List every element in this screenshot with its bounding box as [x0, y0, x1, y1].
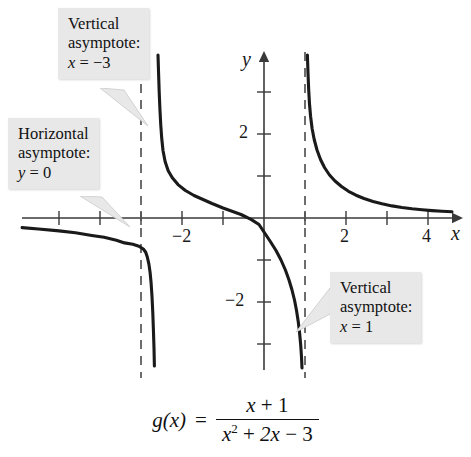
equation-lhs: g(x)	[152, 408, 186, 433]
callout-horizontal-asymptote: Horizontal asymptote: y = 0	[8, 118, 99, 189]
curve-left-branch	[22, 228, 154, 366]
callout-line-3: y = 0	[18, 163, 90, 182]
equation-denominator: x2 + 2x − 3	[216, 420, 319, 448]
callout-line-2: asymptote:	[68, 33, 140, 52]
callout-rel: =	[25, 163, 43, 182]
callout-rel: =	[75, 53, 93, 72]
callout-line-1: Horizontal	[18, 124, 90, 143]
equation-row: g(x) = x + 1 x2 + 2x − 3	[152, 392, 319, 448]
numerator-term-b: 1	[278, 393, 289, 417]
denominator-operator-2: −	[280, 422, 302, 446]
y-tick-label-minus-2: −2	[225, 290, 244, 311]
x-axis-name: x	[451, 222, 460, 245]
callout-rel: =	[347, 317, 365, 336]
callout-tail-va-left	[100, 88, 170, 130]
equation-arg: x	[170, 408, 179, 432]
equation-fraction: x + 1 x2 + 2x − 3	[216, 392, 319, 448]
callout-val: 0	[43, 163, 51, 182]
callout-line-3: x = −3	[68, 53, 140, 72]
equation-equals: =	[193, 408, 209, 433]
callout-line-3: x = 1	[340, 317, 412, 336]
denominator-operator-1: +	[238, 422, 260, 446]
curve-middle-branch	[158, 55, 302, 368]
y-axis-name: y	[242, 48, 251, 71]
y-tick-label-2: 2	[239, 122, 248, 143]
equation-open-paren: (	[163, 408, 170, 432]
callout-tail-horizontal	[80, 196, 160, 232]
rational-function-figure: −2 2 4 2 −2 x y Vertical asymptote: x = …	[0, 0, 471, 457]
x-tick-label-minus-2: −2	[172, 226, 191, 247]
equation-numerator: x + 1	[240, 392, 294, 419]
x-tick-label-2: 2	[340, 226, 349, 247]
callout-vertical-asymptote-right: Vertical asymptote: x = 1	[330, 272, 421, 343]
callout-val: −3	[93, 53, 111, 72]
callout-line-2: asymptote:	[340, 297, 412, 316]
callout-line-1: Vertical	[68, 14, 140, 33]
curve-right-branch	[307, 55, 452, 212]
numerator-term-a: x	[246, 393, 255, 417]
callout-line-1: Vertical	[340, 278, 412, 297]
denominator-term-c: 3	[302, 422, 313, 446]
callout-vertical-asymptote-left: Vertical asymptote: x = −3	[58, 8, 149, 79]
denominator-term-b: 2x	[260, 422, 280, 446]
equation-fn-name: g	[152, 408, 163, 432]
denominator-term-a: x	[222, 422, 231, 446]
x-tick-label-4: 4	[422, 226, 431, 247]
callout-val: 1	[365, 317, 373, 336]
y-axis	[257, 51, 271, 370]
function-equation: g(x) = x + 1 x2 + 2x − 3	[0, 392, 471, 448]
callout-line-2: asymptote:	[18, 143, 90, 162]
numerator-operator: +	[256, 393, 278, 417]
equation-close-paren: )	[179, 408, 186, 432]
